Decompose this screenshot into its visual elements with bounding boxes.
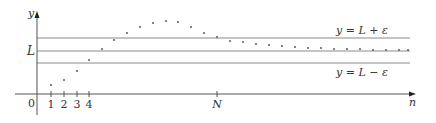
sequence-point (281, 45, 283, 47)
y-axis-arrow-icon (35, 11, 40, 18)
x-tick-label: 3 (74, 98, 81, 111)
limit-label: L (26, 44, 35, 58)
sequence-point (398, 49, 400, 51)
upper-line-label: y = L + ε (335, 24, 388, 37)
sequence-point (50, 84, 52, 86)
epsilon-band (37, 38, 410, 63)
y-axis-label: y (27, 7, 35, 20)
sequence-point (229, 40, 231, 42)
sequence-point (346, 48, 348, 50)
sequence-point (152, 22, 154, 24)
sequence-point (113, 39, 115, 41)
sequence-point (242, 41, 244, 43)
x-tick-label: N (211, 98, 222, 111)
sequence-point (126, 32, 128, 34)
sequence-point (88, 59, 90, 61)
sequence-point (294, 46, 296, 48)
x-tick-label: 1 (48, 98, 55, 111)
sequence-point (101, 48, 103, 50)
sequence-point (63, 79, 65, 81)
sequence-point (320, 47, 322, 49)
x-axis-label: n (409, 96, 416, 109)
sequence-point (385, 49, 387, 51)
origin-label: 0 (28, 97, 35, 110)
sequence-point (216, 36, 218, 38)
convergence-diagram: 1234N y n 0 L y = L + ε y = L − ε (0, 0, 436, 123)
sequence-point (333, 48, 335, 50)
sequence-point (203, 32, 205, 34)
lower-line-label: y = L − ε (335, 66, 388, 79)
sequence-point (190, 26, 192, 28)
sequence-point (139, 26, 141, 28)
sequence-point (359, 48, 361, 50)
sequence-point (255, 43, 257, 45)
sequence-point (177, 21, 179, 23)
sequence-point (165, 20, 167, 22)
sequence-point (76, 70, 78, 72)
x-tick-label: 4 (86, 98, 93, 111)
sequence-point (407, 49, 409, 51)
sequence-point (268, 44, 270, 46)
sequence-point (372, 49, 374, 51)
sequence-point (307, 47, 309, 49)
x-tick-label: 2 (61, 98, 68, 111)
